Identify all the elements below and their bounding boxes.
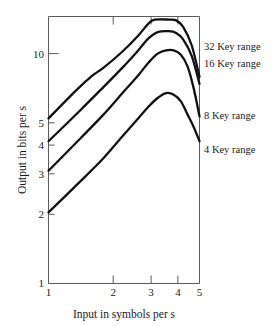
line-chart-plot: 1 2 3 4 5 10 1 2 3 4 5	[0, 0, 278, 326]
y-axis-label: Output in bits per s	[16, 105, 29, 194]
x-ticklabel-2: 2	[110, 286, 116, 298]
y-ticklabel-4: 4	[39, 139, 45, 151]
x-axis-tick-labels: 1 2 3 4 5	[46, 286, 203, 298]
x-axis-label: Input in symbols per s	[73, 308, 176, 321]
series-labels-group: 32 Key range 16 Key range 8 Key range 4 …	[204, 41, 261, 155]
x-ticklabel-5: 5	[197, 286, 203, 298]
series-label-16-key: 16 Key range	[204, 58, 261, 69]
y-ticklabel-2: 2	[39, 208, 45, 220]
y-ticklabel-3: 3	[39, 168, 45, 180]
plot-border	[49, 17, 200, 284]
series-curve-4-key	[49, 93, 200, 212]
data-series-group	[49, 19, 200, 212]
x-ticklabel-1: 1	[46, 286, 52, 298]
x-axis-ticks	[49, 17, 200, 284]
y-ticklabel-10: 10	[33, 48, 45, 60]
x-ticklabel-3: 3	[148, 286, 154, 298]
axes-frame	[49, 17, 200, 284]
x-ticklabel-4: 4	[175, 286, 181, 298]
series-label-32-key: 32 Key range	[204, 41, 261, 52]
series-curve-8-key	[49, 50, 200, 171]
series-curve-16-key	[49, 31, 200, 141]
chart-figure: 1 2 3 4 5 10 1 2 3 4 5	[0, 0, 278, 326]
y-ticklabel-1: 1	[39, 277, 45, 289]
y-axis-tick-labels: 1 2 3 4 5 10	[33, 48, 45, 290]
y-ticklabel-5: 5	[39, 117, 45, 129]
series-label-4-key: 4 Key range	[204, 144, 256, 155]
series-label-8-key: 8 Key range	[204, 110, 256, 121]
